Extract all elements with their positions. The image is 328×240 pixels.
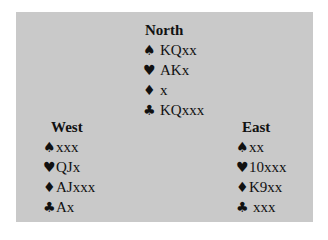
diamond-icon: ♦: [43, 177, 56, 197]
suit-row-hearts: ♥QJx: [43, 157, 95, 177]
club-icon: ♣: [143, 100, 160, 120]
heart-icon: ♥: [43, 157, 56, 177]
cards: xxx: [56, 139, 79, 155]
suit-row-clubs: ♣Ax: [43, 197, 95, 217]
spade-icon: ♠: [236, 137, 249, 157]
hand-north: North ♠KQxx ♥AKx ♦x ♣KQxxx: [143, 20, 204, 120]
suit-row-diamonds: ♦K9xx: [236, 177, 287, 197]
cards: QJx: [56, 159, 80, 175]
hand-title: West: [51, 117, 95, 137]
suit-row-diamonds: ♦x: [143, 80, 204, 100]
cards: K9xx: [249, 179, 282, 195]
suit-row-diamonds: ♦AJxxx: [43, 177, 95, 197]
diamond-icon: ♦: [143, 80, 160, 100]
heart-icon: ♥: [143, 60, 160, 80]
cards: x: [160, 82, 168, 98]
diamond-icon: ♦: [236, 177, 249, 197]
cards: AKx: [160, 62, 189, 78]
cards: 10xxx: [249, 159, 287, 175]
spade-icon: ♠: [43, 137, 56, 157]
cards: AJxxx: [56, 179, 95, 195]
spade-icon: ♠: [143, 40, 160, 60]
suit-row-clubs: ♣KQxxx: [143, 100, 204, 120]
suit-row-spades: ♠xx: [236, 137, 287, 157]
club-icon: ♣: [43, 197, 56, 217]
suit-row-clubs: ♣xxx: [236, 197, 287, 217]
cards: xxx: [253, 199, 276, 215]
suit-row-spades: ♠KQxx: [143, 40, 204, 60]
hand-east: East ♠xx ♥10xxx ♦K9xx ♣xxx: [236, 117, 287, 217]
cards: KQxx: [160, 42, 197, 58]
suit-row-hearts: ♥10xxx: [236, 157, 287, 177]
hand-west: West ♠xxx ♥QJx ♦AJxxx ♣Ax: [43, 117, 95, 217]
hand-title: North: [145, 20, 204, 40]
cards: xx: [249, 139, 264, 155]
hand-title: East: [242, 117, 287, 137]
cards: Ax: [56, 199, 74, 215]
suit-row-hearts: ♥AKx: [143, 60, 204, 80]
club-icon: ♣: [236, 197, 253, 217]
cards: KQxxx: [160, 102, 204, 118]
heart-icon: ♥: [236, 157, 249, 177]
suit-row-spades: ♠xxx: [43, 137, 95, 157]
